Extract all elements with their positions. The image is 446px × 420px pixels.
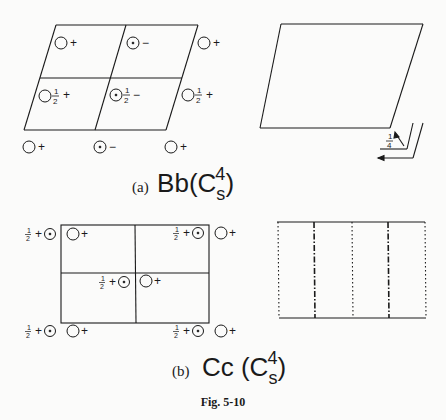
panel-b-symmetry-cell	[277, 222, 426, 318]
fraction-numerator: 1	[101, 275, 105, 282]
fraction-numerator: 1	[175, 226, 179, 233]
fraction-denominator: 2	[124, 96, 129, 105]
atom-sign: +	[35, 324, 42, 338]
fraction-denominator: 2	[100, 283, 104, 290]
atom-sign: +	[70, 36, 77, 50]
panel-a-cell-outline	[24, 25, 198, 130]
panel-b-label: (b)	[172, 363, 190, 379]
space-group-symbol: Bb(Cs4)	[157, 168, 234, 198]
symbol-close: )	[277, 352, 286, 382]
atom-sign: +	[35, 227, 42, 241]
atom-sign: −	[109, 140, 116, 154]
atom-sign: +	[229, 226, 236, 240]
symbol-superscript: 4	[267, 348, 277, 368]
atom-sign: +	[183, 226, 190, 240]
atom-sign: +	[183, 324, 190, 338]
fraction-denominator: 2	[196, 96, 201, 105]
fraction-denominator: 2	[174, 332, 178, 339]
fraction-numerator: 1	[125, 86, 130, 95]
fraction-numerator: 1	[197, 86, 202, 95]
atom-sign: +	[81, 227, 88, 241]
atom-sign: −	[142, 36, 149, 50]
atom-sign: −	[133, 88, 140, 102]
fraction-numerator: 1	[27, 324, 31, 331]
symbol-subscript: s	[216, 184, 225, 204]
symbol-subscript: s	[268, 368, 277, 388]
fraction-numerator: 1	[27, 227, 31, 234]
panel-a-caption: (a) Bb(Cs4)	[132, 168, 234, 199]
symbol-close: )	[225, 168, 234, 198]
fraction-denominator: 2	[53, 97, 58, 106]
panel-b-caption: (b) Cc (Cs4)	[172, 352, 286, 383]
panel-a-label: (a)	[132, 179, 149, 195]
atom-sign: +	[180, 140, 187, 154]
fraction-denominator: 2	[26, 332, 30, 339]
atom-sign: +	[229, 324, 236, 338]
atom-sign: +	[154, 274, 161, 288]
atom-sign: +	[206, 88, 213, 102]
fraction-numerator: 1	[54, 87, 59, 96]
glide-plane-arrow-icon	[378, 123, 423, 161]
atom-sign: +	[81, 324, 88, 338]
panel-a-symmetry-cell	[260, 24, 423, 128]
fraction-numerator: 1	[388, 132, 393, 141]
fraction-denominator: 2	[174, 234, 178, 241]
symbol-main: Bb(C	[157, 168, 216, 198]
symbol-main: Cc (C	[202, 352, 268, 382]
space-group-symbol: Cc (Cs4)	[202, 352, 286, 382]
atom-sign: +	[63, 88, 70, 102]
figure-caption: Fig. 5-10	[0, 395, 446, 410]
fraction-denominator: 2	[26, 235, 30, 242]
symbol-superscript: 4	[215, 164, 225, 184]
fraction-numerator: 1	[175, 324, 179, 331]
panel-a-atoms	[23, 37, 210, 153]
atom-sign: +	[38, 140, 45, 154]
atom-sign: +	[109, 275, 116, 289]
atom-sign: +	[213, 36, 220, 50]
fraction-denominator: 4	[387, 141, 392, 150]
